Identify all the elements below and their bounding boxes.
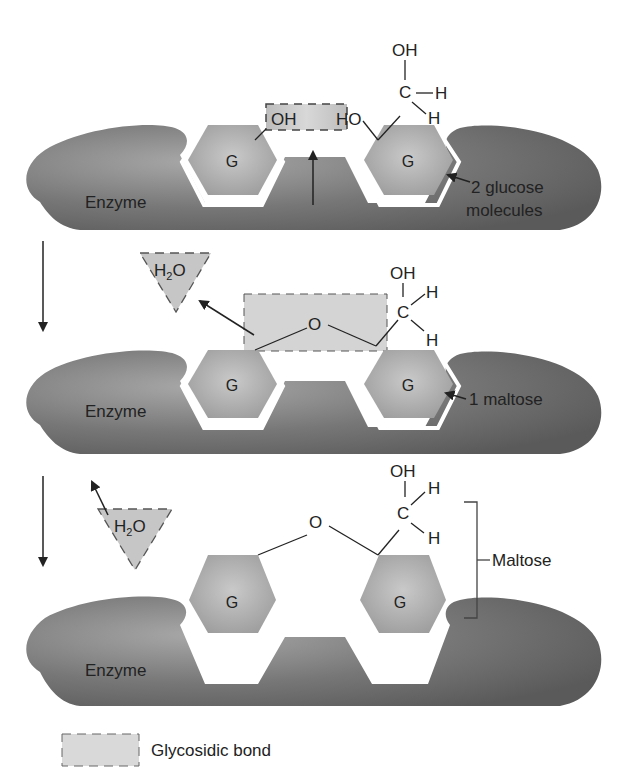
ch2oh-oh: OH [390, 462, 416, 481]
ch2oh-h2: H [428, 109, 440, 128]
ch2oh-h1: H [435, 84, 447, 103]
callout-2-glucose: 2 glucose [471, 178, 544, 197]
ch2oh-h1: H [426, 283, 438, 302]
enzyme-label: Enzyme [85, 661, 146, 680]
panel-step3: G G Enzyme O OH C H H Maltose H2O [26, 462, 601, 706]
panel-step1: G G Enzyme OH HO OH C H H 2 glucose mole… [26, 41, 601, 230]
diagram-canvas: G G Enzyme OH HO OH C H H 2 glucose mole… [0, 0, 633, 778]
enzyme-label: Enzyme [85, 193, 146, 212]
ch2oh-oh: OH [390, 264, 416, 283]
ch2oh-c: C [397, 303, 409, 322]
ch2oh-h2: H [428, 529, 440, 548]
ch2oh-c: C [397, 504, 409, 523]
legend-label: Glycosidic bond [151, 741, 271, 760]
maltose-label: Maltose [492, 551, 552, 570]
enzyme-shape [26, 597, 601, 706]
panel-step2: G G Enzyme O OH C H H H2O 1 maltose [26, 253, 601, 454]
glucose-left-label: G [226, 153, 238, 170]
glucose-right-label: G [402, 153, 414, 170]
ch2oh-oh: OH [392, 41, 418, 60]
ch2oh-h2: H [426, 331, 438, 350]
callout-molecules: molecules [466, 201, 543, 220]
bridge-oxygen: O [308, 315, 321, 334]
enzyme-label: Enzyme [85, 402, 146, 421]
ch2oh-c: C [399, 83, 411, 102]
ch2oh-h1: H [428, 479, 440, 498]
glucose-left-label: G [226, 594, 238, 611]
oh-group-left: OH [271, 110, 297, 129]
legend-swatch [62, 734, 139, 766]
callout-1-maltose: 1 maltose [469, 390, 543, 409]
ho-group-right: HO [336, 110, 362, 129]
glucose-right-label: G [394, 594, 406, 611]
glucose-right-label: G [402, 377, 414, 394]
bridge-oxygen: O [309, 513, 322, 532]
legend: Glycosidic bond [62, 734, 271, 766]
glucose-left-label: G [226, 377, 238, 394]
